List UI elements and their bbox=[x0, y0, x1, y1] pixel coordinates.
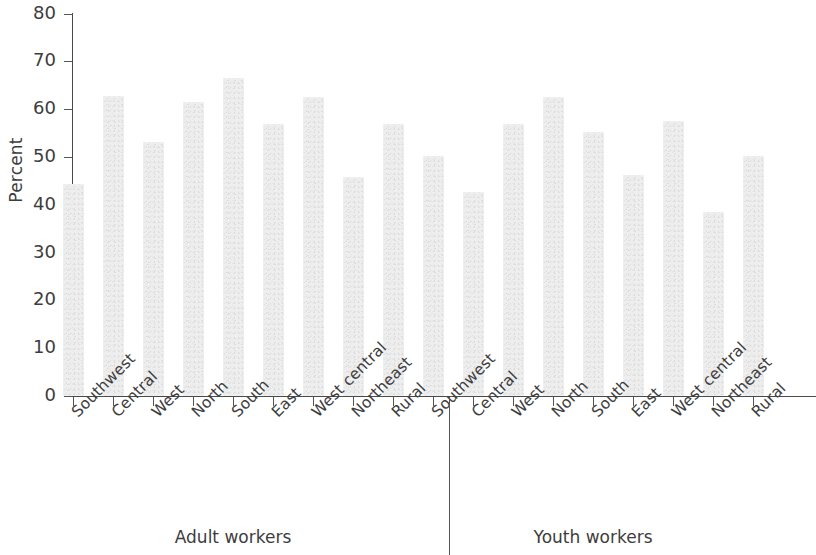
bar-chart: Percent 01020304050607080 SouthwestCentr… bbox=[0, 0, 816, 555]
y-tick-mark bbox=[64, 61, 72, 62]
bar bbox=[583, 132, 604, 396]
y-tick-label: 70 bbox=[0, 51, 56, 69]
group-separator bbox=[449, 397, 450, 555]
bar bbox=[63, 184, 84, 396]
y-tick-label: 60 bbox=[0, 99, 56, 117]
bar bbox=[223, 78, 244, 396]
bar bbox=[183, 102, 204, 396]
bar bbox=[663, 121, 684, 396]
y-tick-label: 40 bbox=[0, 195, 56, 213]
bar bbox=[103, 96, 124, 396]
y-tick-label: 80 bbox=[0, 4, 56, 22]
group-label-adult-workers: Adult workers bbox=[133, 527, 333, 547]
y-tick-mark bbox=[64, 109, 72, 110]
y-tick-label: 20 bbox=[0, 290, 56, 308]
group-label-youth-workers: Youth workers bbox=[493, 527, 693, 547]
bar bbox=[303, 97, 324, 396]
bar bbox=[543, 97, 564, 396]
bar bbox=[423, 156, 444, 396]
y-tick-mark bbox=[64, 14, 72, 15]
y-tick-label: 10 bbox=[0, 338, 56, 356]
y-tick-mark bbox=[64, 396, 72, 397]
y-tick-label: 50 bbox=[0, 147, 56, 165]
y-tick-mark bbox=[64, 157, 72, 158]
y-tick-label: 30 bbox=[0, 243, 56, 261]
y-tick-label: 0 bbox=[0, 386, 56, 404]
bar bbox=[143, 142, 164, 396]
bar bbox=[623, 175, 644, 396]
bar bbox=[503, 124, 524, 396]
bar bbox=[263, 124, 284, 396]
